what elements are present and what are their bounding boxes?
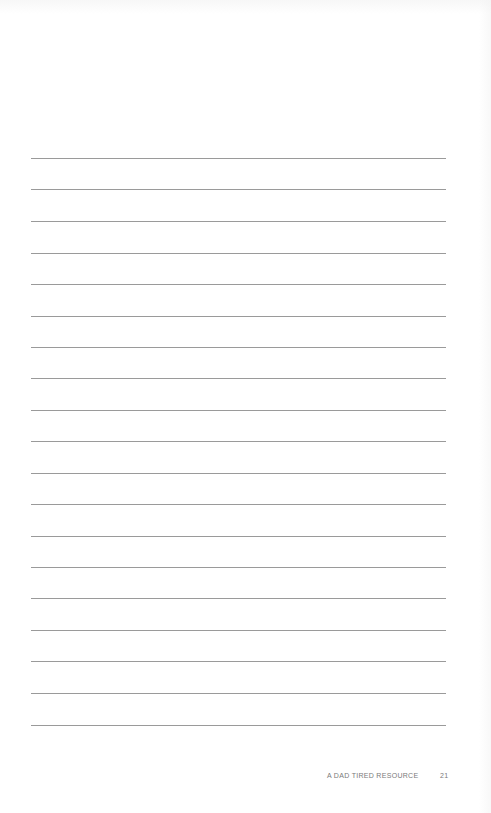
writing-line [31,253,446,254]
writing-line [31,378,446,379]
writing-line [31,221,446,222]
writing-line [31,473,446,474]
writing-line [31,410,446,411]
writing-line [31,189,446,190]
writing-line [31,441,446,442]
writing-line [31,661,446,662]
writing-line [31,725,446,726]
writing-line [31,158,446,159]
writing-line [31,693,446,694]
footer-label: A DAD TIRED RESOURCE [327,770,418,782]
page-edge-shadow-right [479,0,491,813]
writing-line [31,347,446,348]
writing-line [31,567,446,568]
page-number: 21 [440,770,448,782]
writing-line [31,284,446,285]
writing-line [31,598,446,599]
writing-line [31,630,446,631]
writing-line [31,316,446,317]
notes-page: A DAD TIRED RESOURCE 21 [0,0,491,813]
writing-lines [31,0,446,813]
writing-line [31,504,446,505]
writing-line [31,536,446,537]
